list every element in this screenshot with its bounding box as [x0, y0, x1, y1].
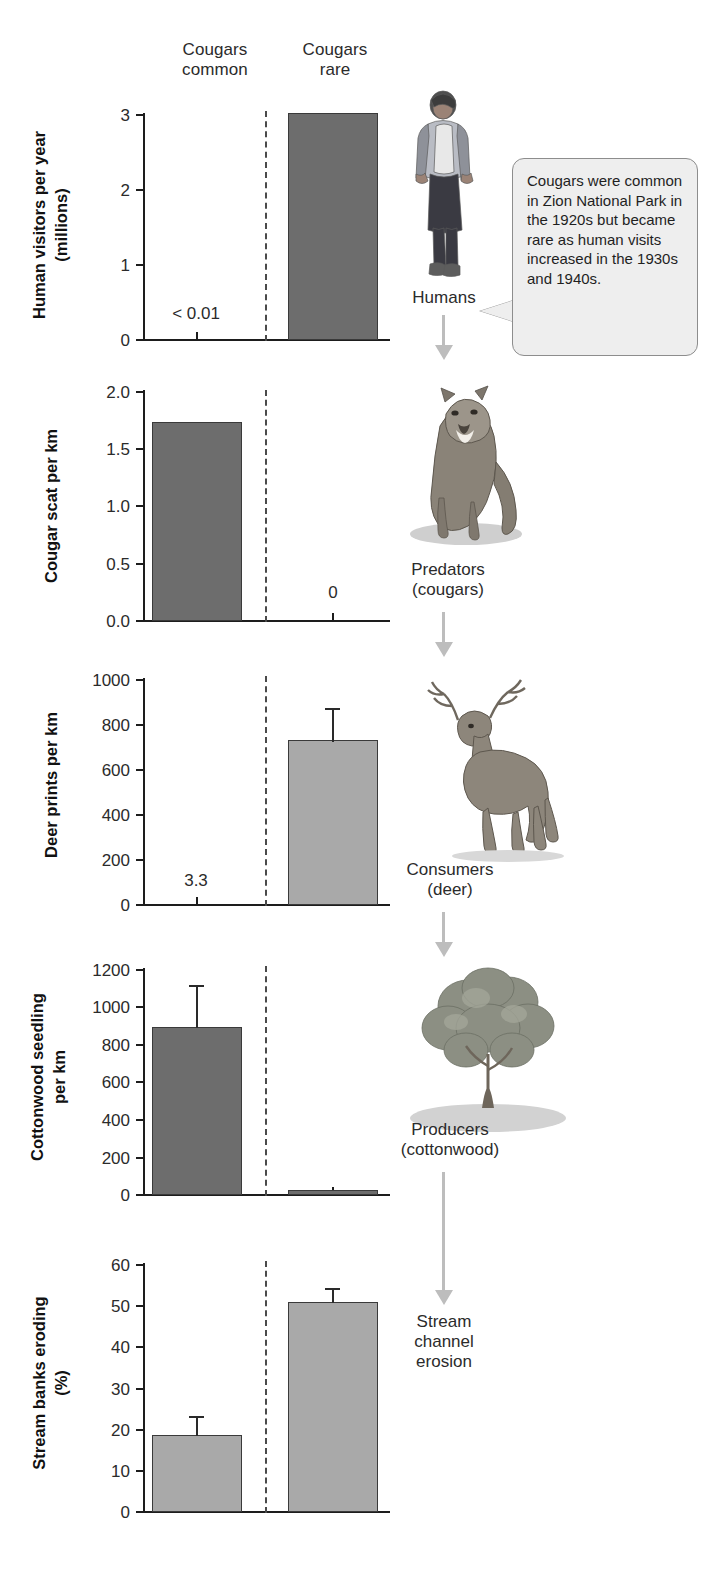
chart-deer-prints: Deer prints per km 0 200 400 600 800 100…: [0, 660, 400, 922]
y-tick: [136, 189, 145, 191]
y-tick-label: 800: [66, 1037, 130, 1054]
y-tick: [136, 1511, 145, 1513]
y-tick: [136, 1044, 145, 1046]
y-axis: [143, 113, 145, 341]
human-illustration: [398, 88, 490, 283]
arrow-consumers-to-producers-head: [435, 942, 453, 957]
y-axis: [143, 678, 145, 906]
y-tick-label: 0: [96, 332, 130, 349]
error-bar-common: [196, 1416, 198, 1436]
column-header-line2: common: [160, 60, 270, 80]
y-tick-label: 1.5: [78, 441, 130, 458]
axis-title-human-visitors: Human visitors per year: [30, 105, 49, 345]
axis-title-cottonwood: Cottonwood seedling: [28, 952, 47, 1202]
y-tick-label: 400: [66, 1112, 130, 1129]
y-tick-label: 40: [78, 1339, 130, 1356]
y-tick: [136, 505, 145, 507]
trophic-label-producers: Producers (cottonwood): [370, 1120, 530, 1160]
y-tick: [136, 1264, 145, 1266]
y-tick: [136, 1305, 145, 1307]
y-tick: [136, 563, 145, 565]
column-header-line1: Cougars: [280, 40, 390, 60]
y-tick-label: 200: [66, 1150, 130, 1167]
y-tick: [136, 1346, 145, 1348]
trophic-label-consumers: Consumers (deer): [384, 860, 516, 900]
error-bar-common: [196, 985, 198, 1028]
y-tick: [136, 814, 145, 816]
error-bar-cap-rare: [325, 708, 340, 710]
y-tick-label: 1.0: [78, 498, 130, 515]
callout-text: Cougars were common in Zion National Par…: [527, 172, 682, 287]
callout-tail: [480, 300, 514, 322]
y-tick-label: 800: [72, 717, 130, 734]
y-tick: [136, 1388, 145, 1390]
y-tick: [136, 1470, 145, 1472]
column-header-cougars-common: Cougars common: [160, 40, 270, 80]
y-tick: [136, 1006, 145, 1008]
y-tick: [136, 969, 145, 971]
y-tick-label: 20: [78, 1422, 130, 1439]
y-tick-label: 400: [72, 807, 130, 824]
arrow-consumers-to-producers-stem: [442, 912, 445, 944]
y-tick-label: 0.5: [78, 556, 130, 573]
bar-cougars-common: [152, 422, 242, 621]
cougar-illustration: [400, 370, 530, 550]
arrow-humans-to-predators-head: [435, 345, 453, 360]
y-tick-label: 200: [72, 852, 130, 869]
y-tick-label: 3: [96, 107, 130, 124]
column-header-line1: Cougars: [160, 40, 270, 60]
y-tick: [136, 769, 145, 771]
y-tick-label: 50: [78, 1298, 130, 1315]
group-divider: [265, 390, 267, 622]
y-tick-label: 10: [78, 1463, 130, 1480]
y-tick: [136, 679, 145, 681]
group-divider: [265, 111, 267, 341]
callout-box: Cougars were common in Zion National Par…: [512, 158, 698, 356]
y-tick: [136, 448, 145, 450]
y-tick-label: 1: [96, 257, 130, 274]
chart-cottonwood-seedlings: Cottonwood seedling per km 0 200 400 600…: [0, 950, 400, 1212]
y-tick-label: 0: [66, 1187, 130, 1204]
y-tick: [136, 859, 145, 861]
y-tick: [136, 620, 145, 622]
trophic-cascade-figure: Cougars common Cougars rare Human visito…: [0, 0, 712, 1574]
y-tick-label: 1000: [72, 672, 130, 689]
axis-title-deer-prints: Deer prints per km: [42, 660, 61, 910]
y-tick: [136, 1194, 145, 1196]
group-divider: [265, 1261, 267, 1513]
error-bar-cap-rare: [325, 1288, 340, 1290]
trophic-label-erosion: Stream channel erosion: [386, 1312, 502, 1372]
error-bar-cap-common: [189, 985, 204, 987]
y-tick: [136, 1119, 145, 1121]
y-tick-label: 0.0: [78, 613, 130, 630]
arrow-producers-to-erosion-head: [435, 1290, 453, 1305]
bar-value-label-common: < 0.01: [150, 305, 242, 322]
y-tick: [136, 1429, 145, 1431]
y-tick-label: 60: [78, 1257, 130, 1274]
y-tick-label: 30: [78, 1381, 130, 1398]
error-bar-cap-common: [189, 1416, 204, 1418]
y-tick-label: 600: [66, 1074, 130, 1091]
category-mark: [332, 613, 334, 622]
arrow-producers-to-erosion-stem: [442, 1172, 445, 1292]
bar-cougars-rare: [288, 113, 378, 340]
y-tick-label: 1200: [66, 962, 130, 979]
y-tick: [136, 904, 145, 906]
axis-title-stream-banks-units: (%): [52, 1253, 71, 1513]
y-tick-label: 0: [78, 1504, 130, 1521]
y-tick: [136, 391, 145, 393]
y-tick: [136, 1157, 145, 1159]
bar-cougars-rare: [288, 740, 378, 905]
bar-value-label-rare: 0: [287, 584, 379, 601]
y-tick: [136, 339, 145, 341]
group-divider: [265, 676, 267, 906]
y-tick-label: 600: [72, 762, 130, 779]
column-header-cougars-rare: Cougars rare: [280, 40, 390, 80]
bar-cougars-rare: [288, 1190, 378, 1195]
error-bar-rare: [332, 1288, 334, 1303]
y-tick: [136, 724, 145, 726]
category-mark: [196, 332, 198, 341]
y-tick: [136, 264, 145, 266]
y-tick: [136, 114, 145, 116]
arrow-predators-to-consumers-stem: [442, 612, 445, 644]
